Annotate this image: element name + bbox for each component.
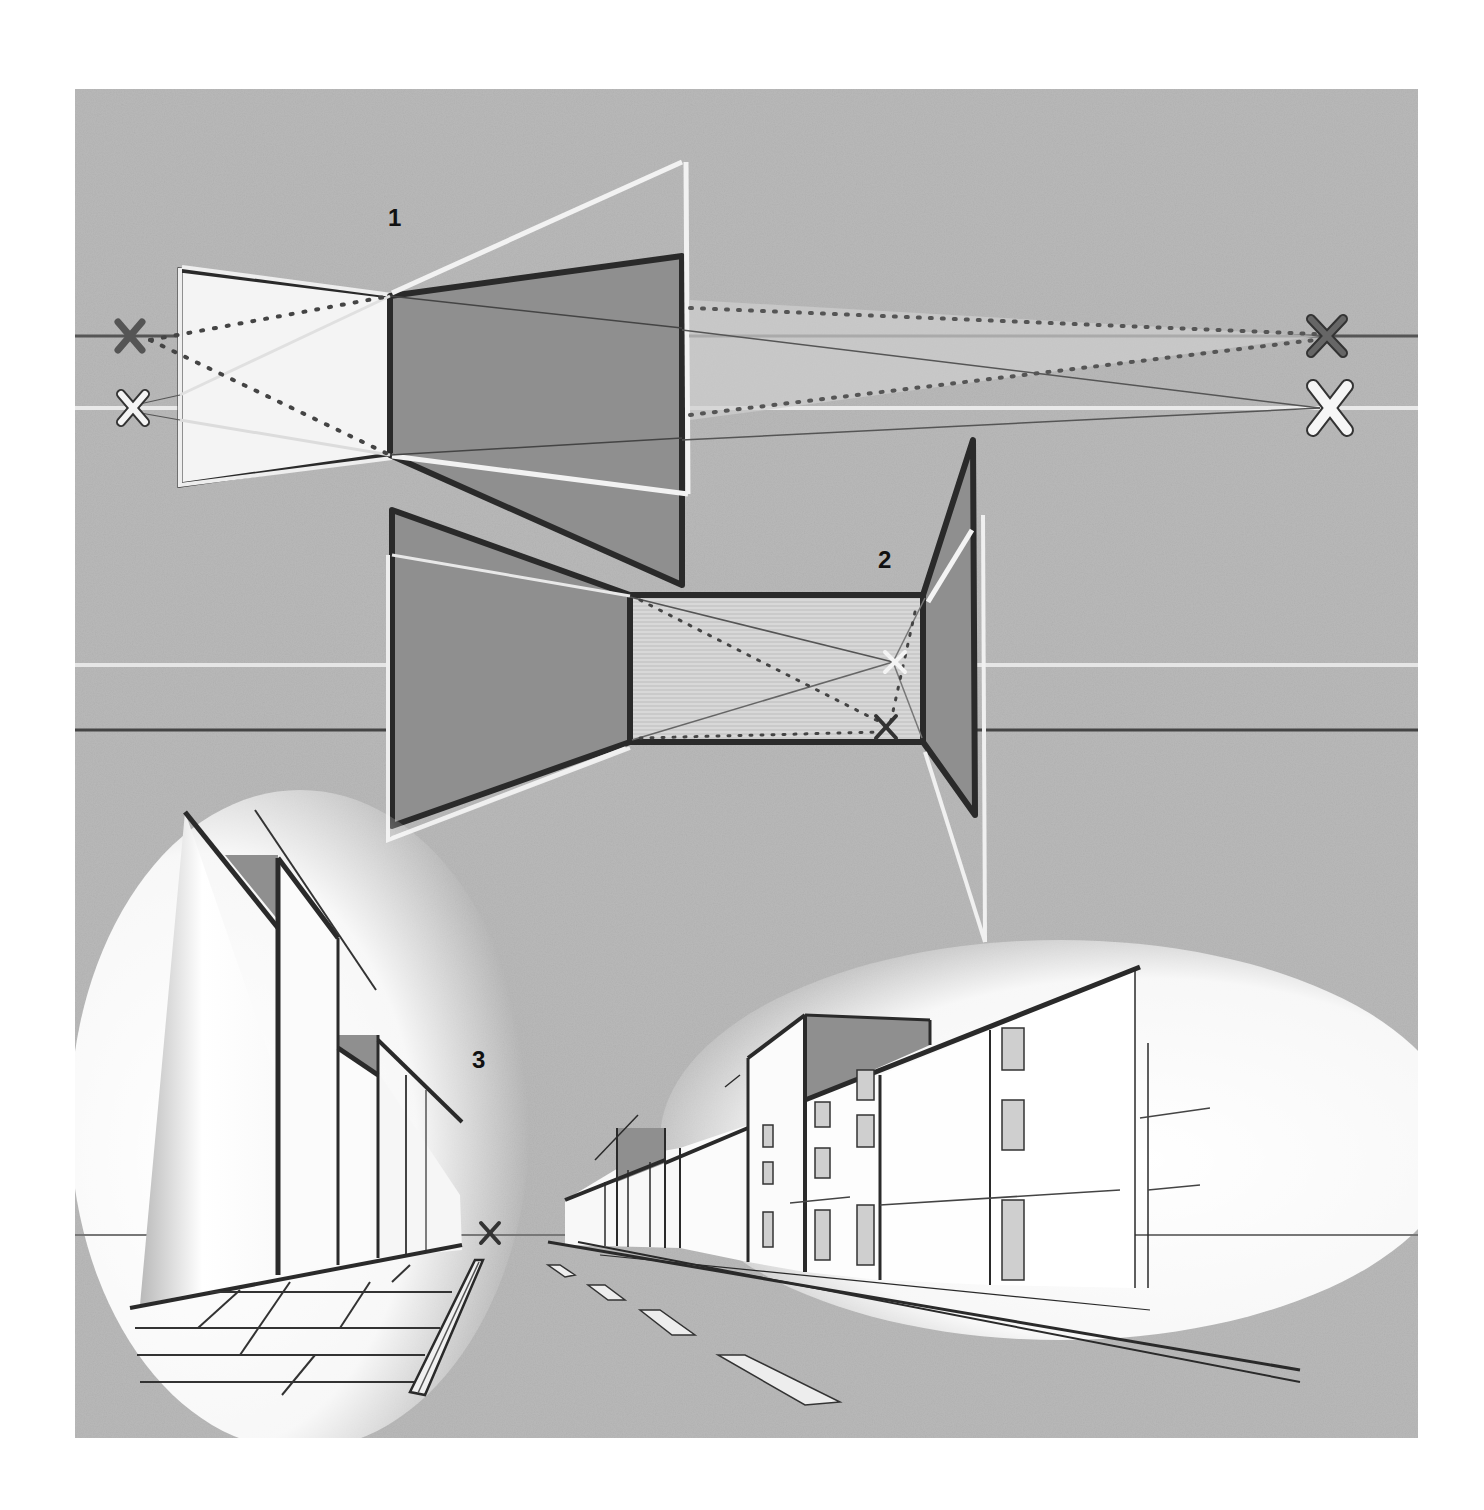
figure-label-3: 3	[472, 1046, 485, 1073]
right-wall-chalk-side	[983, 515, 985, 942]
figure-label-2: 2	[878, 546, 891, 573]
figure-label-1: 1	[388, 204, 401, 231]
right-block-b	[880, 1030, 990, 1285]
perspective-diagram: 1 2	[0, 0, 1484, 1510]
right-block-mid	[680, 1125, 748, 1262]
left-building-wall-2	[338, 1050, 380, 1265]
right-chalk-side	[686, 162, 688, 494]
